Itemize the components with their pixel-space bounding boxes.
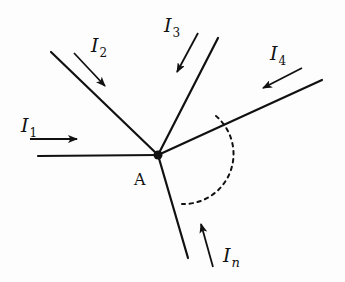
label-i2-symbol: I — [91, 34, 99, 56]
label-i3-symbol: I — [164, 14, 172, 36]
current-arrow-in — [201, 224, 213, 267]
label-in-symbol: I — [223, 244, 231, 266]
kirchhoff-node-diagram: I1 I2 I3 I4 In A — [0, 0, 345, 282]
label-i1: I1 — [21, 116, 37, 139]
branch-1 — [38, 155, 158, 156]
branch-n — [158, 155, 188, 258]
label-i1-symbol: I — [21, 114, 29, 136]
label-i4-symbol: I — [270, 42, 278, 64]
label-i4-subscript: 4 — [279, 54, 287, 68]
label-i4: I4 — [270, 44, 286, 67]
label-in-subscript: n — [232, 255, 240, 270]
dashed-arc — [182, 116, 234, 204]
node-dot — [154, 151, 163, 160]
label-in: In — [223, 246, 240, 269]
branch-4 — [158, 80, 322, 155]
label-i3-subscript: 3 — [173, 26, 181, 40]
label-i2: I2 — [91, 36, 107, 59]
label-i3: I3 — [164, 16, 180, 39]
branch-3 — [158, 38, 218, 155]
label-i2-subscript: 2 — [100, 46, 108, 60]
current-arrow-i4 — [263, 68, 302, 88]
diagram-drawing — [0, 0, 345, 282]
node-label-a: A — [134, 172, 146, 188]
label-i1-subscript: 1 — [30, 126, 38, 140]
